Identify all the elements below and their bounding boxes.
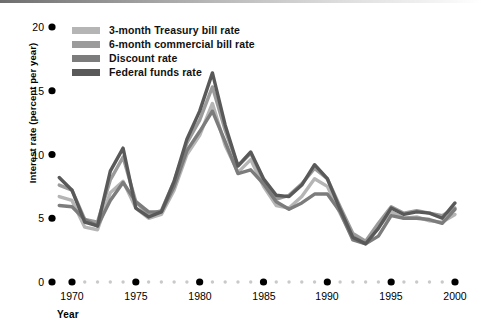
chart-figure: Interest rate (percent per year) 20 15 1… — [0, 0, 481, 326]
x-axis-major-tick-dots — [68, 278, 458, 285]
data-series-lines — [59, 73, 455, 244]
series-line — [59, 104, 455, 244]
series-line — [59, 111, 455, 244]
plot-area — [0, 0, 481, 326]
y-axis-tick-dots — [48, 23, 55, 285]
